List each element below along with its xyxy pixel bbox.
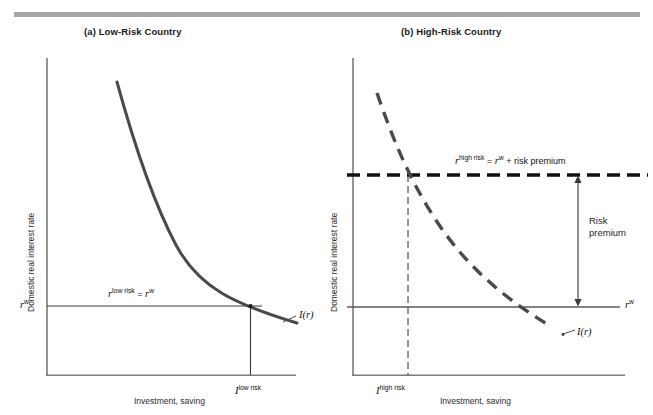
panel-b-x-axis-label: Investment, saving bbox=[440, 396, 511, 406]
panel-a-graph bbox=[46, 58, 297, 376]
risk-premium-line-2: premium bbox=[589, 227, 626, 239]
panel-a-curve-label-text: I(r) bbox=[299, 309, 314, 320]
panel-a-curve-label: I(r) bbox=[299, 308, 314, 320]
figure-canvas: (a) Low-Risk Country (b) High-Risk Count… bbox=[0, 0, 653, 415]
diagram-svg bbox=[0, 0, 653, 415]
panel-b-risk-premium-annotation: Risk premium bbox=[589, 215, 626, 239]
panel-b-curve-label: I(r) bbox=[577, 325, 592, 337]
panel-b-eq-tail: + risk premium bbox=[506, 156, 565, 166]
panel-b-world-rate-sup: w bbox=[629, 298, 634, 305]
panel-a-equilibrium-point bbox=[248, 304, 252, 308]
panel-b-eq-lhs-sup: high risk bbox=[459, 154, 484, 161]
panel-b-investment-curve bbox=[377, 93, 552, 327]
panel-b-curve-label-dot bbox=[562, 333, 565, 336]
panel-b-investment-tick: Ihigh risk bbox=[376, 385, 405, 396]
panel-b-eq-rhs-sup: w bbox=[499, 154, 504, 161]
panel-b-risk-premium-arrow bbox=[574, 176, 581, 307]
panel-b-curve-label-leader bbox=[563, 330, 575, 334]
panel-b-eq-operator: = bbox=[487, 156, 492, 166]
panel-b-world-rate-tick: rw bbox=[625, 299, 634, 310]
panel-a-world-rate-tick: rw bbox=[20, 299, 29, 310]
panel-a-x-axis-label: Investment, saving bbox=[134, 396, 205, 406]
panel-a-equation: rlow risk = rw bbox=[108, 288, 154, 299]
risk-premium-line-1: Risk bbox=[589, 215, 626, 227]
panel-a-eq-rhs-sup: w bbox=[149, 287, 154, 294]
panel-a-eq-operator: = bbox=[137, 289, 142, 299]
panel-a-investment-curve bbox=[117, 82, 297, 323]
panel-a-investment-tick: Ilow risk bbox=[235, 385, 261, 396]
panel-b-y-axis-label: Domestic real interest rate bbox=[329, 213, 339, 312]
panel-a-world-rate-sup: w bbox=[24, 298, 29, 305]
panel-b-curve-label-text: I(r) bbox=[577, 326, 592, 337]
panel-a-inv-sup: low risk bbox=[239, 384, 262, 391]
panel-a-eq-lhs-sup: low risk bbox=[112, 287, 135, 294]
panel-b-equation: rhigh risk = rw + risk premium bbox=[455, 155, 566, 166]
panel-b-inv-sup: high risk bbox=[380, 384, 405, 391]
